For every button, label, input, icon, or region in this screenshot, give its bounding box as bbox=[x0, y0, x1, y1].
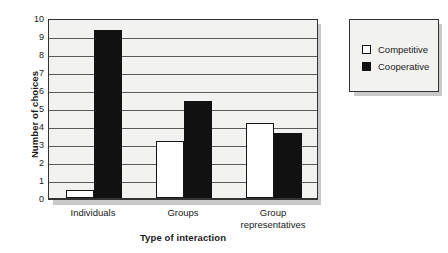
y-axis-tick-label: 1 bbox=[28, 177, 44, 186]
x-axis-title: Type of interaction bbox=[48, 232, 318, 243]
bar-cooperative bbox=[94, 30, 122, 198]
bar-competitive bbox=[246, 123, 274, 198]
x-axis-tick-label-line: representatives bbox=[216, 219, 330, 231]
legend-entry: Cooperative bbox=[362, 59, 438, 74]
legend-entry: Competitive bbox=[362, 42, 438, 57]
bar-competitive bbox=[66, 190, 94, 198]
bar-cooperative bbox=[274, 133, 302, 198]
bar-group bbox=[246, 20, 302, 198]
y-axis-tick-label: 10 bbox=[28, 15, 44, 24]
bar-group bbox=[156, 20, 212, 198]
bar-competitive bbox=[156, 141, 184, 198]
white-square-icon bbox=[362, 45, 371, 54]
bar-group bbox=[66, 20, 122, 198]
y-axis-tick-label: 2 bbox=[28, 159, 44, 168]
bars-layer bbox=[49, 20, 317, 198]
plot-area bbox=[48, 19, 318, 199]
x-axis-tick-label: Grouprepresentatives bbox=[216, 207, 330, 230]
legend-label: Cooperative bbox=[378, 62, 429, 72]
y-axis-tick-label: 8 bbox=[28, 51, 44, 60]
y-axis-tick-label: 4 bbox=[28, 123, 44, 132]
x-axis-line bbox=[48, 199, 318, 200]
legend-label: Competitive bbox=[378, 45, 428, 55]
y-axis-tick-label: 9 bbox=[28, 33, 44, 42]
y-axis-tick-label: 7 bbox=[28, 69, 44, 78]
y-axis-tick-labels: 012345678910 bbox=[28, 19, 44, 199]
y-axis-tick-label: 0 bbox=[28, 195, 44, 204]
black-square-icon bbox=[362, 62, 371, 71]
y-axis-tick-label: 6 bbox=[28, 87, 44, 96]
y-axis-tick-label: 5 bbox=[28, 105, 44, 114]
bar-chart-figure: Number of choices 012345678910 Individua… bbox=[0, 0, 448, 253]
chart-legend: CompetitiveCooperative bbox=[349, 19, 439, 92]
y-axis-tick-label: 3 bbox=[28, 141, 44, 150]
x-axis-tick-label-line: Group bbox=[216, 207, 330, 219]
bar-cooperative bbox=[184, 101, 212, 198]
